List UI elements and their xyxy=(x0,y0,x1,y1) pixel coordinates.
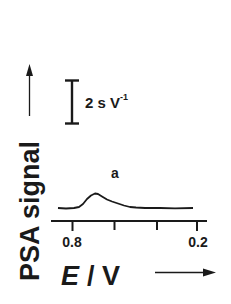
scale-bar-label: 2 s V-1 xyxy=(85,92,128,111)
x-tick-label-0.2: 0.2 xyxy=(188,234,208,250)
scale-bar-superscript: -1 xyxy=(120,92,128,102)
curve-label-a: a xyxy=(111,165,119,181)
curve-a xyxy=(58,194,193,209)
x-axis-label: E/ V xyxy=(61,261,120,291)
psa-chart: PSA signal 2 s V-1 a 0.8 0.2 E/ V xyxy=(0,0,231,304)
y-axis-arrow-icon xyxy=(26,64,33,116)
x-axis-arrow-icon xyxy=(155,269,216,277)
x-axis xyxy=(51,221,207,231)
x-tick-label-0.8: 0.8 xyxy=(62,234,82,250)
scale-bar xyxy=(65,81,79,124)
y-axis-label: PSA signal xyxy=(15,141,45,281)
